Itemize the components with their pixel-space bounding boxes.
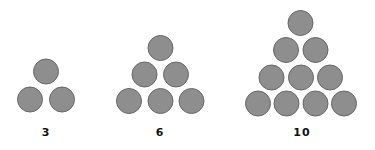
triangular-numbers-diagram	[0, 0, 375, 150]
dot-circle	[303, 38, 328, 63]
dot-circle	[50, 87, 75, 112]
dot-circle	[246, 91, 271, 116]
triangle-group-3	[18, 59, 75, 112]
dot-circle	[117, 89, 142, 114]
dot-circle	[288, 11, 313, 36]
dot-circle	[274, 38, 299, 63]
dot-circle	[289, 65, 314, 90]
dot-circle	[332, 91, 357, 116]
group-label-6: 6	[156, 127, 165, 138]
dot-circle	[303, 91, 328, 116]
triangle-group-6	[117, 36, 205, 114]
dot-circle	[132, 62, 157, 87]
triangle-group-10	[246, 11, 357, 117]
group-label-3: 3	[42, 127, 51, 138]
dot-circle	[164, 62, 189, 87]
dot-circle	[274, 91, 299, 116]
dot-circle	[34, 59, 59, 84]
group-label-10: 10	[293, 127, 310, 138]
dot-circle	[148, 36, 173, 61]
dot-circle	[259, 65, 284, 90]
dot-circle	[179, 89, 204, 114]
dot-circle	[18, 87, 43, 112]
dot-circle	[318, 65, 343, 90]
dot-circle	[148, 89, 173, 114]
